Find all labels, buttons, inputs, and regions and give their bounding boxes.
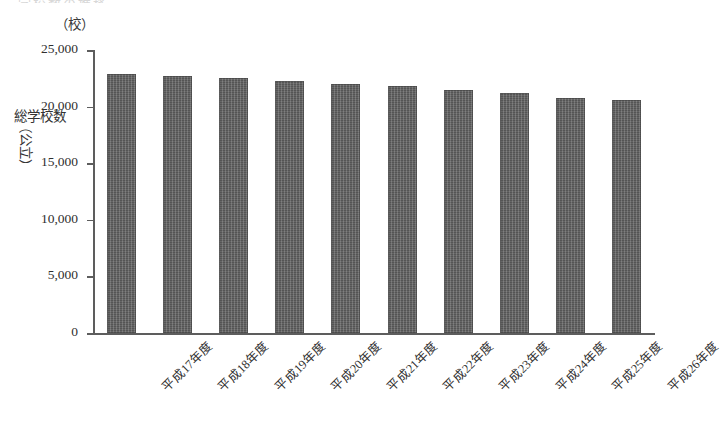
bar bbox=[556, 98, 585, 333]
x-axis-label: 平成23年度 bbox=[494, 336, 553, 395]
bar bbox=[444, 90, 473, 333]
plot-area: 05,00010,00015,00020,00025,000 bbox=[93, 50, 655, 333]
y-axis-unit-label: （校） bbox=[55, 13, 94, 33]
bar bbox=[388, 86, 417, 333]
y-tick-label: 20,000 bbox=[41, 98, 78, 114]
y-tick-label: 10,000 bbox=[41, 211, 78, 227]
y-tick-label: 0 bbox=[71, 324, 78, 340]
bar bbox=[219, 78, 248, 333]
y-tick-label: 25,000 bbox=[41, 41, 78, 57]
x-axis-label: 平成18年度 bbox=[213, 336, 272, 395]
y-axis-title: 総学校数 （公立） bbox=[14, 110, 36, 138]
x-axis-label: 平成21年度 bbox=[382, 336, 441, 395]
y-tick: 0 bbox=[87, 333, 93, 335]
bar bbox=[612, 100, 641, 333]
bar bbox=[331, 84, 360, 333]
x-axis-label: 平成25年度 bbox=[607, 336, 666, 395]
x-axis-line bbox=[93, 333, 655, 335]
bar bbox=[107, 74, 136, 333]
clipped-header-text: 学校数の推移 bbox=[18, 0, 638, 3]
bar bbox=[275, 81, 304, 333]
x-axis-label: 平成22年度 bbox=[438, 336, 497, 395]
bar bbox=[500, 93, 529, 333]
bar bbox=[163, 76, 192, 333]
x-axis-label: 平成19年度 bbox=[269, 336, 328, 395]
x-axis-label: 平成24年度 bbox=[550, 336, 609, 395]
y-tick-label: 15,000 bbox=[41, 154, 78, 170]
x-axis-label: 平成17年度 bbox=[157, 336, 216, 395]
bar-series bbox=[93, 50, 655, 333]
x-axis-labels: 平成17年度平成18年度平成19年度平成20年度平成21年度平成22年度平成23… bbox=[93, 336, 655, 418]
y-axis-title-paren: （公立） bbox=[18, 120, 32, 142]
y-tick-label: 5,000 bbox=[48, 267, 78, 283]
x-axis-label: 平成26年度 bbox=[663, 336, 722, 395]
x-axis-label: 平成20年度 bbox=[326, 336, 385, 395]
